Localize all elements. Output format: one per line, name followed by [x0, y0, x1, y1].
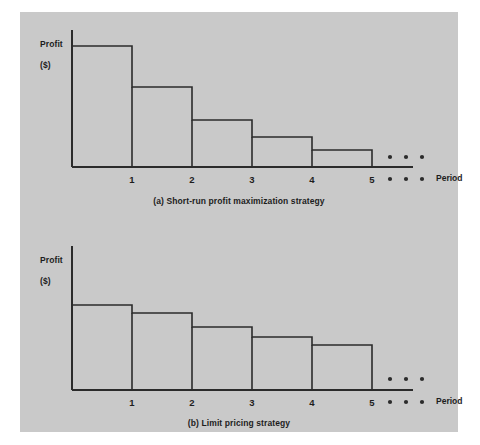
- chart-b-lower-dot-3: [420, 400, 424, 404]
- chart-b-upper-dot-2: [404, 377, 408, 381]
- chart-a-caption: (a) Short-run profit maximization strate…: [20, 196, 458, 206]
- chart-b-upper-dot-3: [420, 377, 424, 381]
- chart-b-tick-2: 2: [189, 397, 194, 408]
- chart-b-caption-tag: (b): [188, 418, 199, 428]
- chart-b-plot: 1 2 3 4 5: [20, 222, 458, 432]
- chart-a-caption-text: Short-run profit maximization strategy: [166, 196, 324, 206]
- chart-a-caption-tag: (a): [153, 196, 164, 206]
- chart-a-lower-dot-2: [404, 177, 408, 181]
- chart-b-x-axis-label: Period: [436, 396, 462, 406]
- chart-a-x-axis-label: Period: [436, 173, 462, 183]
- chart-b-lower-dot-2: [404, 400, 408, 404]
- chart-a-tick-1: 1: [129, 174, 135, 185]
- chart-b-tick-3: 3: [249, 397, 254, 408]
- chart-a-tick-5: 5: [369, 174, 375, 185]
- chart-a-tick-3: 3: [249, 174, 254, 185]
- chart-a-upper-dot-3: [420, 155, 424, 159]
- chart-b-bars-outline: [72, 305, 372, 390]
- chart-a-container: Profit ($): [20, 12, 458, 222]
- chart-a-upper-dot-2: [404, 155, 408, 159]
- chart-b-container: Profit ($): [20, 222, 458, 432]
- chart-b-caption: (b) Limit pricing strategy: [20, 418, 458, 428]
- chart-a-upper-dot-1: [388, 155, 392, 159]
- chart-b-lower-dot-1: [388, 400, 392, 404]
- chart-b-tick-1: 1: [129, 397, 135, 408]
- chart-a-lower-dot-3: [420, 177, 424, 181]
- chart-b-upper-dot-1: [388, 377, 392, 381]
- chart-b-tick-5: 5: [369, 397, 375, 408]
- chart-b-caption-text: Limit pricing strategy: [201, 418, 290, 428]
- figure-root: Profit ($): [0, 0, 480, 445]
- chart-a-lower-dot-1: [388, 177, 392, 181]
- chart-a-tick-4: 4: [309, 174, 315, 185]
- chart-a-tick-2: 2: [189, 174, 194, 185]
- figure-panel: Profit ($): [20, 12, 458, 432]
- chart-a-bars-outline: [72, 46, 372, 167]
- chart-a-plot: 1 2 3 4 5: [20, 12, 458, 222]
- chart-b-tick-4: 4: [309, 397, 315, 408]
